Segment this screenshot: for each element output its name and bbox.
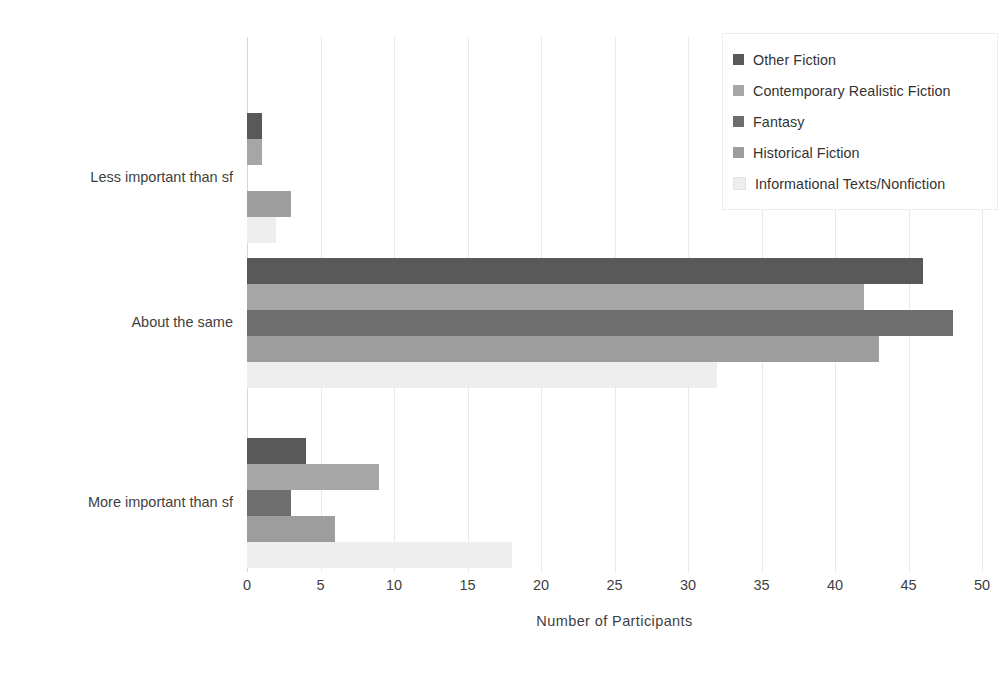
bar-row [247,438,982,464]
x-tick-label: 10 [386,577,402,593]
legend-item[interactable]: Other Fiction [733,44,989,75]
legend-item[interactable]: Historical Fiction [733,137,989,168]
bar[interactable] [247,438,306,464]
legend-swatch-icon [733,54,744,65]
bar[interactable] [247,113,262,139]
x-tick-label: 50 [974,577,990,593]
bar[interactable] [247,516,335,542]
legend-label: Contemporary Realistic Fiction [753,83,951,99]
category-label: More important than sf [3,494,233,510]
legend-item[interactable]: Informational Texts/Nonfiction [733,168,989,199]
bar-row [247,464,982,490]
bar-row [247,542,982,568]
x-tick-label: 15 [459,577,475,593]
bar[interactable] [247,310,953,336]
x-tick-label: 5 [316,577,324,593]
legend-label: Historical Fiction [753,145,860,161]
bar[interactable] [247,542,512,568]
bar[interactable] [247,490,291,516]
legend-swatch-icon [733,177,746,190]
legend-label: Informational Texts/Nonfiction [755,176,945,192]
legend-swatch-icon [733,116,744,127]
bar-row [247,310,982,336]
bar-row [247,490,982,516]
legend-label: Other Fiction [753,52,836,68]
bar-group [247,438,982,568]
bar[interactable] [247,464,379,490]
category-label: Less important than sf [3,169,233,185]
legend-item[interactable]: Contemporary Realistic Fiction [733,75,989,106]
bar[interactable] [247,217,276,243]
bar-row [247,258,982,284]
bar-chart: Less important than sfAbout the sameMore… [0,0,1006,680]
bar-row [247,362,982,388]
bar-row [247,336,982,362]
x-tick-label: 0 [243,577,251,593]
bar[interactable] [247,191,291,217]
x-tick-label: 35 [753,577,769,593]
bar[interactable] [247,336,879,362]
bar-row [247,284,982,310]
legend-swatch-icon [733,85,744,96]
bar[interactable] [247,284,864,310]
legend: Other FictionContemporary Realistic Fict… [722,33,998,210]
x-tick-label: 30 [680,577,696,593]
x-tick-label: 40 [827,577,843,593]
x-tick-label: 45 [900,577,916,593]
bar[interactable] [247,258,923,284]
bar[interactable] [247,139,262,165]
x-tick-label: 25 [606,577,622,593]
bar-row [247,516,982,542]
bar-row [247,217,982,243]
category-label: About the same [3,314,233,330]
x-axis-title: Number of Participants [247,613,982,629]
legend-label: Fantasy [753,114,805,130]
bar-group [247,258,982,388]
x-tick-label: 20 [533,577,549,593]
legend-item[interactable]: Fantasy [733,106,989,137]
bar[interactable] [247,362,717,388]
legend-swatch-icon [733,147,744,158]
